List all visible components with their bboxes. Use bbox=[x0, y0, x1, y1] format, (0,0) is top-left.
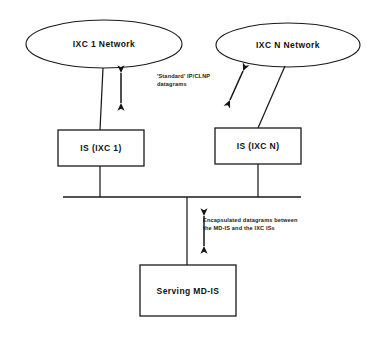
node-is-ixcn-shape bbox=[215, 128, 301, 164]
annotation-line: 'Standard' IP/CLNP bbox=[157, 72, 210, 80]
standard-datagrams-annotation: 'Standard' IP/CLNP datagrams bbox=[157, 72, 210, 88]
node-ixc1-network-shape bbox=[26, 20, 182, 68]
diagram-canvas bbox=[0, 0, 382, 337]
annotation-line: the MD-IS and the IXC ISs bbox=[203, 224, 298, 232]
node-ixcn-network-shape bbox=[216, 23, 360, 67]
link-ixc1-to-is1 bbox=[100, 68, 103, 130]
network-diagram: IXC 1 Network IXC N Network IS (IXC 1) I… bbox=[0, 0, 382, 337]
double-arrow-icon-standard-right bbox=[230, 71, 243, 100]
node-is-ixc1-shape bbox=[58, 130, 144, 166]
link-ixcn-to-isn bbox=[258, 66, 285, 128]
annotation-line: Encapsulated datagrams between bbox=[203, 216, 298, 224]
encapsulated-datagrams-annotation: Encapsulated datagrams between the MD-IS… bbox=[203, 216, 298, 232]
node-serving-mdis-shape bbox=[140, 265, 236, 316]
annotation-line: datagrams bbox=[157, 80, 210, 88]
